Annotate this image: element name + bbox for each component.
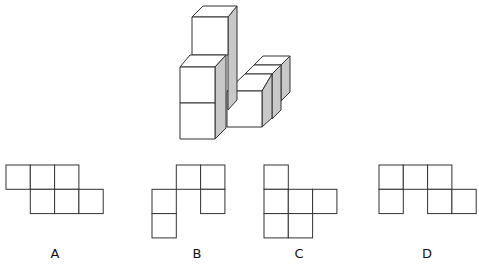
option-label-a[interactable]: A [51, 246, 60, 261]
net-cell [79, 189, 103, 213]
option-label-c[interactable]: C [294, 246, 303, 261]
net-cell [152, 214, 176, 238]
net-cell [288, 189, 312, 213]
net-cell [264, 214, 288, 238]
net-option-b[interactable] [152, 165, 225, 238]
net-cell [379, 189, 403, 213]
net-cell [201, 189, 225, 213]
net-option-d[interactable] [379, 165, 476, 214]
net-cell [152, 189, 176, 213]
net-cell [264, 189, 288, 213]
net-cell [30, 189, 54, 213]
option-label-d[interactable]: D [422, 246, 432, 261]
net-cell [55, 189, 79, 213]
net-cell [6, 165, 30, 189]
cube-stack-figure [180, 6, 290, 139]
net-cell [264, 165, 288, 189]
net-cell [313, 189, 337, 213]
net-cell [452, 189, 476, 213]
net-cell [428, 165, 452, 189]
net-cell [379, 165, 403, 189]
net-cell [176, 165, 200, 189]
net-option-a[interactable] [6, 165, 103, 214]
puzzle-stage: A B C D [0, 0, 479, 269]
net-cell [403, 165, 427, 189]
net-cell [428, 189, 452, 213]
net-cell [30, 165, 54, 189]
net-cell [288, 214, 312, 238]
option-label-b[interactable]: B [193, 246, 202, 261]
net-option-c[interactable] [264, 165, 337, 238]
net-cell [201, 165, 225, 189]
puzzle-figure [0, 0, 479, 269]
net-options [6, 165, 476, 238]
net-cell [55, 165, 79, 189]
